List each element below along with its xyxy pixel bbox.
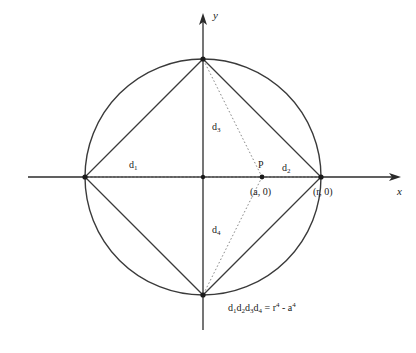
label-d4: d4	[212, 225, 221, 235]
eq-d3-sub: 3	[250, 307, 254, 315]
center-dot	[201, 175, 205, 179]
eq-d2-sub: 2	[242, 307, 246, 315]
eq-d1-sub: 1	[233, 307, 237, 315]
label-d2-sub: 2	[287, 167, 291, 175]
eq-d2: d	[237, 302, 242, 313]
identity-equation: d1d2d3d4 = r4 - a4	[228, 303, 296, 313]
label-d2: d2	[282, 163, 291, 173]
eq-d4: d	[254, 302, 259, 313]
y-axis-label: y	[213, 10, 218, 21]
vertex-bottom-dot	[200, 292, 205, 297]
label-d1: d1	[129, 160, 138, 170]
label-point-a: (a, 0)	[250, 187, 271, 197]
segment-d3	[203, 59, 262, 177]
eq-r-exp: 4	[276, 301, 280, 309]
vertex-left-dot	[82, 174, 87, 179]
label-d4-sub: 4	[217, 229, 221, 237]
eq-minus: -	[279, 302, 287, 313]
label-d3-sub: 3	[217, 126, 221, 134]
label-d3: d3	[212, 122, 221, 132]
diagram-canvas: y x d1 d2 d3 d4 P (a, 0) (r, 0) d1d2d3d4…	[0, 0, 416, 353]
eq-equals: =	[262, 302, 273, 313]
label-point-r: (r, 0)	[313, 187, 333, 197]
eq-d4-sub: 4	[259, 307, 263, 315]
vertex-top-dot	[200, 56, 205, 61]
eq-a-exp: 4	[292, 301, 296, 309]
vertex-right-dot	[318, 174, 323, 179]
x-axis-label: x	[397, 186, 402, 197]
point-p-dot	[260, 175, 265, 180]
geometry-figure	[0, 0, 416, 353]
label-d1-sub: 1	[134, 164, 138, 172]
label-point-p: P	[258, 160, 264, 170]
